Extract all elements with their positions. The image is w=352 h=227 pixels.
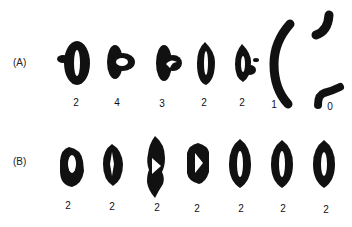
count-label: 2 — [106, 201, 118, 212]
a4-ring-shape — [197, 42, 215, 85]
panel-a-label: (A) — [13, 57, 26, 68]
b3-ring-shape — [147, 136, 165, 198]
b4-ring-shape — [187, 143, 209, 184]
count-label: 3 — [156, 98, 168, 109]
count-label: 2 — [235, 203, 247, 214]
count-label: 2 — [191, 203, 203, 214]
count-label: 2 — [320, 204, 332, 215]
count-label: 2 — [151, 202, 163, 213]
b2-ring-shape — [103, 144, 123, 186]
a7-fragment-top — [316, 15, 329, 35]
count-label: 1 — [268, 99, 280, 110]
count-label: 2 — [236, 97, 248, 108]
b5-ring-shape — [229, 139, 251, 188]
b1-ring-shape — [60, 147, 84, 187]
a1-ring-shape — [57, 41, 90, 85]
count-label: 2 — [277, 203, 289, 214]
b7-ring-shape — [313, 140, 335, 188]
a3-ring-shape — [156, 45, 182, 81]
a6-arc-shape — [274, 24, 290, 104]
figure-drawing — [0, 0, 352, 227]
count-label: 2 — [62, 200, 74, 211]
count-label: 2 — [70, 97, 82, 108]
b6-ring-shape — [271, 140, 293, 188]
a5-ring-shape — [235, 44, 259, 82]
count-label: 0 — [324, 101, 336, 112]
count-label: 4 — [111, 97, 123, 108]
panel-b-label: (B) — [13, 156, 26, 167]
a2-ring-shape — [107, 45, 135, 79]
count-label: 2 — [198, 97, 210, 108]
